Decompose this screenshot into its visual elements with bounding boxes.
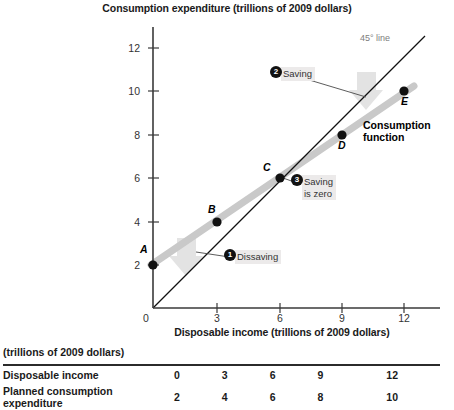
- consumption-function-label-line2: function: [363, 131, 404, 143]
- data-point-a: [148, 260, 157, 269]
- y-tick-label-12: 12: [118, 42, 140, 54]
- callout-saving-is-zero-text: Saving is zero: [302, 175, 336, 200]
- callout-badge-1: 1: [224, 249, 236, 261]
- table-row-header-disposable-income: Disposable income: [3, 367, 153, 383]
- table-row-header-planned-consumption: Planned consumption expenditure: [3, 383, 153, 410]
- callout-badge-2: 2: [270, 66, 282, 78]
- callout-saving-is-zero: 3 Saving is zero: [291, 174, 336, 200]
- table-row-header-line1: Planned consumption: [3, 385, 113, 397]
- table-cell: 3: [201, 367, 249, 383]
- table-cell: 10: [344, 383, 440, 410]
- consumption-function-label-line1: Consumption: [363, 119, 431, 131]
- callout-leader-lines: [196, 76, 366, 258]
- point-label-e: E: [401, 95, 408, 107]
- point-label-b: B: [208, 203, 216, 215]
- table-units-caption: (trillions of 2009 dollars): [3, 346, 124, 358]
- table-cell: 12: [344, 367, 440, 383]
- point-label-a: A: [140, 243, 148, 255]
- data-point-b: [212, 217, 221, 226]
- x-tick-label-9: 9: [332, 312, 352, 324]
- callout-badge-3: 3: [291, 174, 303, 186]
- table-cell: 9: [296, 367, 344, 383]
- table-cell: 6: [249, 367, 297, 383]
- table-row-header-line2: expenditure: [3, 397, 153, 409]
- x-tick-label-0: 0: [136, 312, 156, 324]
- callout-dissaving-text: Dissaving: [235, 250, 281, 264]
- x-axis-title: Disposable income (trillions of 2009 dol…: [110, 326, 454, 338]
- x-tick-label-6: 6: [270, 312, 290, 324]
- callout-saving-text: Saving: [281, 67, 315, 81]
- y-tick-label-6: 6: [118, 172, 140, 184]
- y-tick-label-8: 8: [118, 129, 140, 141]
- callout-saving-is-zero-line1: Saving: [304, 176, 333, 187]
- y-tick-label-10: 10: [118, 85, 140, 97]
- table-cell: 4: [201, 383, 249, 410]
- point-label-c: C: [263, 161, 271, 173]
- consumption-function-label: Consumption function: [363, 119, 431, 143]
- consumption-data-table: Disposable income 0 3 6 9 12 Planned con…: [3, 367, 440, 410]
- saving-arrow: [349, 72, 383, 110]
- table-cell: 0: [153, 367, 201, 383]
- callout-dissaving: 1 Dissaving: [224, 249, 281, 264]
- table-top-rule: [3, 364, 440, 366]
- consumption-function-figure: Consumption expenditure (trillions of 20…: [0, 0, 454, 345]
- x-tick-label-12: 12: [394, 312, 414, 324]
- table-cell: 2: [153, 383, 201, 410]
- data-point-c: [275, 173, 284, 182]
- y-tick-label-2: 2: [118, 259, 140, 271]
- callout-saving: 2 Saving: [270, 66, 315, 81]
- point-label-d: D: [338, 139, 346, 151]
- plot-canvas: [0, 0, 454, 345]
- y-tick-label-4: 4: [118, 216, 140, 228]
- callout-saving-is-zero-line2: is zero: [304, 188, 332, 199]
- table-row: Planned consumption expenditure 2 4 6 8 …: [3, 383, 440, 410]
- forty-five-degree-line-label: 45° line: [360, 33, 390, 43]
- table-cell: 8: [296, 383, 344, 410]
- x-tick-label-3: 3: [207, 312, 227, 324]
- table-row: Disposable income 0 3 6 9 12: [3, 367, 440, 383]
- data-table-section: (trillions of 2009 dollars) Disposable i…: [0, 345, 454, 410]
- table-cell: 6: [249, 383, 297, 410]
